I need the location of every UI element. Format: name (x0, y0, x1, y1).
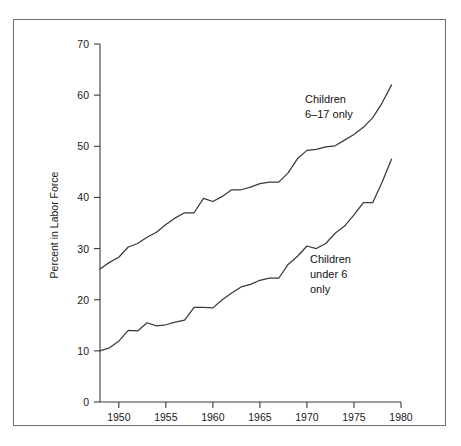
y-tick-label: 50 (77, 140, 89, 152)
y-tick-label: 10 (77, 345, 89, 357)
upper-series-label: Children6–17 only (305, 93, 353, 120)
upper-series-label-line-1: 6–17 only (305, 108, 353, 120)
y-tick-label: 0 (83, 396, 89, 408)
x-tick-label: 1950 (107, 411, 131, 423)
y-tick-label: 30 (77, 243, 89, 255)
x-tick-label: 1980 (389, 411, 413, 423)
chart-figure: 010203040506070 195019551960196519701975… (0, 0, 461, 446)
series-annotations: Children6–17 onlyChildrenunder 6only (305, 93, 353, 295)
upper-series-label-line-0: Children (305, 93, 346, 105)
y-tick-label: 20 (77, 294, 89, 306)
lower-series-label: Childrenunder 6only (310, 253, 351, 295)
x-tick-label: 1975 (342, 411, 366, 423)
y-tick-label: 60 (77, 89, 89, 101)
line-chart-plot: 010203040506070 195019551960196519701975… (0, 0, 461, 446)
x-tick-label: 1970 (295, 411, 319, 423)
y-axis-title: Percent in Labor Force (48, 171, 60, 278)
series-lines (100, 85, 392, 351)
y-axis-ticks: 010203040506070 (77, 38, 100, 408)
x-tick-label: 1960 (201, 411, 225, 423)
lower-series-label-line-2: only (310, 283, 331, 295)
lower-series-label-line-1: under 6 (310, 268, 347, 280)
x-tick-label: 1965 (248, 411, 272, 423)
x-axis-ticks: 1950195519601965197019751980 (107, 402, 413, 423)
y-tick-label: 40 (77, 191, 89, 203)
axes (100, 44, 401, 402)
lower-series-label-line-0: Children (310, 253, 351, 265)
x-tick-label: 1955 (154, 411, 178, 423)
y-tick-label: 70 (77, 38, 89, 50)
